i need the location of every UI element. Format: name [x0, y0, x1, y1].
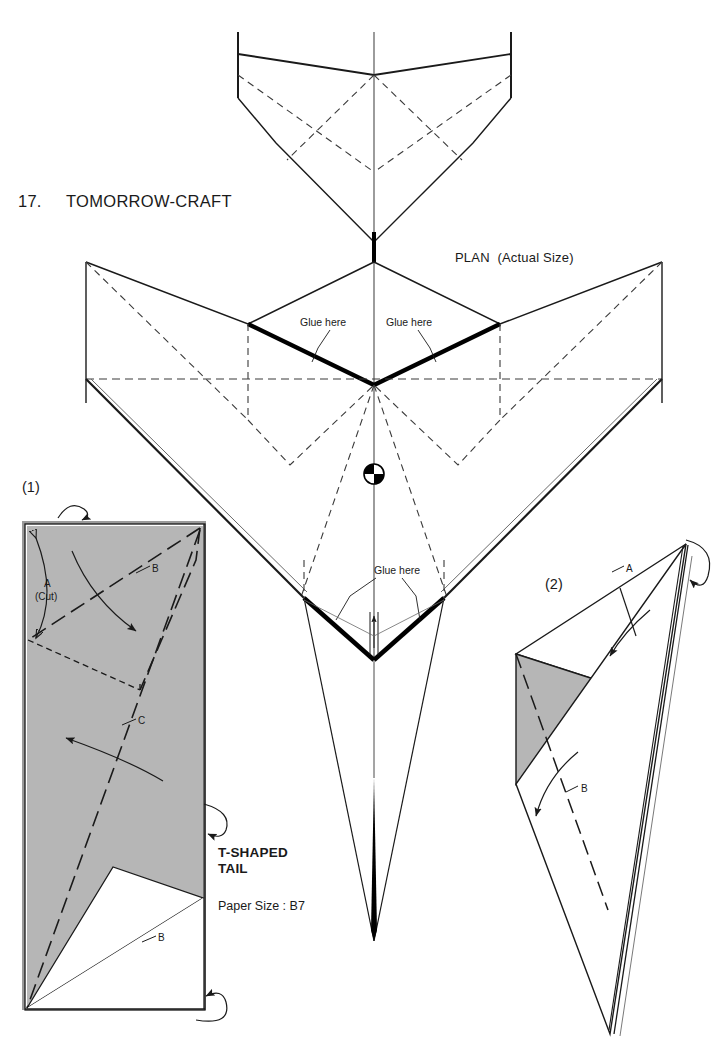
step-1-number: (1)	[22, 479, 40, 496]
glue-strip-right	[374, 324, 500, 385]
tail-type-line2: TAIL	[218, 861, 248, 876]
step2-leader-a	[612, 566, 624, 572]
step-2-figure	[516, 540, 710, 1036]
model-number: 17.	[18, 192, 42, 211]
step-1-mark-a: A	[44, 578, 51, 590]
step2-roll-arrow	[686, 540, 710, 585]
step1-roll-arrow-right	[204, 804, 227, 836]
nose-fold-dashed-left	[238, 75, 374, 172]
nose-side-right	[374, 98, 511, 242]
step1-flip-arrow-top	[58, 506, 88, 520]
glue-strip-left	[248, 324, 374, 385]
cg-marker	[364, 464, 384, 484]
wing-trailing-edge-right-inner	[441, 379, 657, 592]
nose-diagonal-dashed-right	[374, 75, 462, 160]
step-2-number: (2)	[545, 576, 563, 593]
tail-type-label: T-SHAPEDTAIL	[218, 845, 288, 877]
plan-page: 17. TOMORROW-CRAFT PLAN (Actual Size) Gl…	[0, 0, 720, 1049]
step-1-figure	[22, 506, 227, 1022]
glue-here-label-left: Glue here	[300, 316, 346, 328]
wing-outer-leading-right	[374, 262, 662, 324]
page-title: TOMORROW-CRAFT	[66, 192, 232, 211]
glue-here-label-tail: Glue here	[374, 564, 420, 576]
step-1-mark-b-top: B	[152, 563, 159, 575]
tail-type-line1: T-SHAPED	[218, 845, 288, 860]
nose-fold-dashed-right	[374, 75, 511, 172]
step-1-mark-b-bottom: B	[158, 932, 165, 944]
wing-fold-dashed-left-outer	[86, 262, 248, 420]
tail-keel-thick	[371, 778, 377, 941]
step-2-mark-a: A	[626, 563, 633, 575]
nose-diagonal-dashed-left	[287, 75, 374, 160]
glue-here-label-right: Glue here	[386, 316, 432, 328]
wing-fold-dashed-center-left	[300, 385, 374, 600]
step-2-mark-b: B	[581, 783, 588, 795]
step-1-mark-c: C	[138, 715, 145, 727]
wing-fold-dashed-right-outer	[500, 262, 662, 420]
wing-outer-leading-left	[86, 262, 374, 324]
paper-size-label: Paper Size : B7	[218, 899, 305, 914]
step-1-mark-cut: (Cut)	[35, 591, 57, 603]
nose-side-left	[238, 98, 374, 242]
plan-label: PLAN (Actual Size)	[455, 250, 574, 265]
plan-drawing	[0, 0, 720, 1049]
